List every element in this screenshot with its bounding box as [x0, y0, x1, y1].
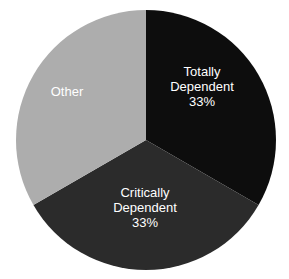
- pie-chart-svg: [0, 0, 289, 279]
- pie-slices: [16, 10, 276, 270]
- pie-chart-figure: Totally Dependent 33% Critically Depende…: [0, 0, 289, 279]
